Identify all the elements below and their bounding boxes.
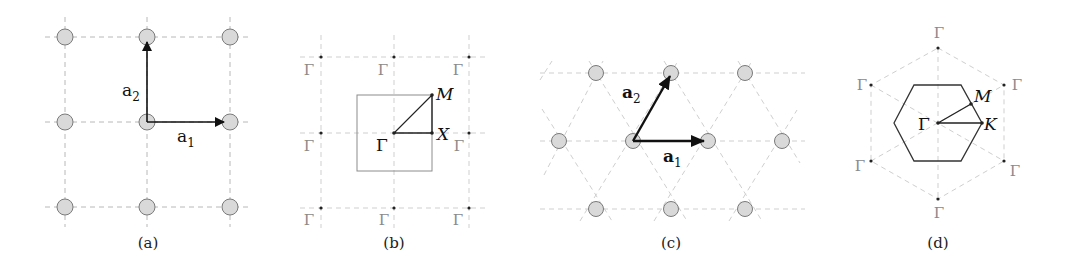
- svg-text:Γ: Γ: [378, 61, 388, 79]
- svg-text:Γ: Γ: [304, 137, 314, 155]
- symmetry-path-gamma-x-m: [394, 95, 432, 133]
- svg-text:Γ: Γ: [1012, 76, 1022, 94]
- label-a1: a1: [663, 146, 682, 170]
- label-gamma: Γ: [918, 114, 930, 134]
- panel-b: Γ Γ Γ Γ Γ Γ Γ Γ Γ M X (b): [300, 35, 486, 252]
- caption-b: (b): [383, 234, 404, 252]
- panel-c: a2 a1 (c): [540, 61, 805, 252]
- panel-d: Γ Γ Γ Γ Γ Γ Γ M K (d): [855, 24, 1022, 252]
- label-a2: a2: [122, 80, 140, 104]
- label-a1: a1: [177, 126, 195, 150]
- label-gamma: Γ: [376, 135, 388, 155]
- svg-text:Γ: Γ: [379, 211, 389, 229]
- svg-text:Γ: Γ: [1010, 162, 1020, 180]
- label-a2: a2: [622, 82, 641, 106]
- svg-text:Γ: Γ: [934, 204, 944, 222]
- label-m: M: [973, 86, 992, 106]
- vector-a2: [633, 76, 670, 141]
- x-point: [430, 131, 434, 135]
- label-m: M: [435, 84, 454, 104]
- panel-a: a2 a1 (a): [45, 17, 252, 252]
- svg-text:Γ: Γ: [934, 24, 944, 42]
- svg-text:Γ: Γ: [453, 61, 463, 79]
- svg-text:Γ: Γ: [304, 61, 314, 79]
- m-point: [969, 102, 973, 106]
- label-x: X: [435, 124, 450, 144]
- caption-d: (d): [927, 234, 948, 252]
- svg-text:Γ: Γ: [855, 157, 865, 175]
- gamma-point: [392, 131, 396, 135]
- lattice-figure: a2 a1 (a) Γ Γ Γ Γ Γ: [0, 0, 1066, 272]
- symmetry-path-gamma-m-k: [938, 104, 982, 123]
- caption-c: (c): [661, 234, 681, 252]
- gamma-point: [936, 121, 940, 125]
- caption-a: (a): [138, 234, 159, 252]
- svg-text:Γ: Γ: [454, 137, 464, 155]
- svg-text:Γ: Γ: [453, 211, 463, 229]
- svg-text:Γ: Γ: [304, 211, 314, 229]
- svg-text:Γ: Γ: [857, 76, 867, 94]
- label-k: K: [983, 114, 998, 134]
- m-point: [430, 93, 434, 97]
